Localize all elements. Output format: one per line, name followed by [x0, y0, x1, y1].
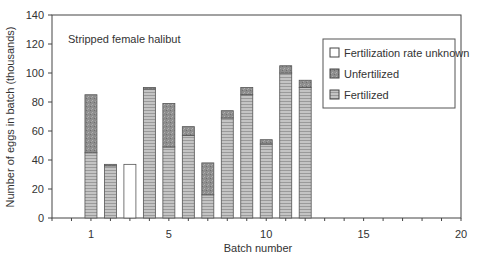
bar-segment-unfertilized	[104, 164, 116, 165]
bars	[85, 66, 311, 218]
stacked-bar-chart: Stripped female halibut 0204060801001201…	[0, 0, 477, 266]
bar-batch-2	[104, 164, 116, 218]
legend-label-unfertilized: Unfertilized	[344, 68, 399, 80]
x-tick-label: 20	[455, 228, 467, 240]
legend: Fertilization rate unknown Unfertilized …	[323, 39, 469, 108]
y-tick-label: 100	[26, 67, 44, 79]
y-axis: 020406080100120140	[26, 9, 52, 224]
bar-segment-unfertilized	[280, 66, 292, 73]
bar-segment-unfertilized	[221, 111, 233, 118]
legend-swatch-fertilized	[330, 90, 339, 99]
bar-segment-fertilization-rate-unknown	[124, 164, 136, 218]
y-tick-label: 140	[26, 9, 44, 21]
x-axis: 15101520	[52, 218, 467, 240]
legend-item-fertilized: Fertilized	[330, 89, 389, 101]
y-tick-label: 0	[38, 212, 44, 224]
bar-batch-7	[202, 163, 214, 218]
bar-segment-fertilized	[280, 73, 292, 218]
y-tick-label: 80	[32, 96, 44, 108]
legend-swatch-unfertilized	[330, 69, 339, 78]
bar-segment-unfertilized	[241, 88, 253, 95]
bar-batch-1	[85, 95, 97, 218]
bar-batch-10	[260, 140, 272, 218]
bar-batch-3	[124, 164, 136, 218]
legend-label-fertilized: Fertilized	[344, 89, 389, 101]
legend-swatch-unknown	[330, 48, 339, 57]
bar-segment-unfertilized	[182, 127, 194, 136]
bar-segment-fertilized	[221, 118, 233, 218]
legend-label-unknown: Fertilization rate unknown	[344, 47, 469, 59]
bar-batch-6	[182, 127, 194, 218]
bar-segment-fertilized	[163, 147, 175, 218]
bar-batch-12	[299, 80, 311, 218]
x-tick-label: 1	[88, 228, 94, 240]
x-tick-label: 5	[166, 228, 172, 240]
bar-segment-unfertilized	[163, 103, 175, 147]
bar-batch-9	[241, 88, 253, 219]
bar-segment-fertilized	[85, 153, 97, 218]
bar-segment-unfertilized	[202, 163, 214, 195]
bar-segment-fertilized	[202, 195, 214, 218]
bar-segment-fertilized	[143, 89, 155, 218]
bar-segment-fertilized	[241, 95, 253, 218]
bar-segment-fertilized	[104, 166, 116, 218]
x-tick-label: 10	[260, 228, 272, 240]
bar-segment-fertilized	[299, 88, 311, 219]
y-tick-label: 60	[32, 125, 44, 137]
x-axis-title: Batch number	[224, 242, 293, 254]
bar-batch-11	[280, 66, 292, 218]
y-tick-label: 20	[32, 183, 44, 195]
bar-segment-fertilized	[260, 144, 272, 218]
bar-batch-4	[143, 88, 155, 219]
bar-segment-fertilized	[182, 135, 194, 218]
bar-segment-unfertilized	[85, 95, 97, 153]
x-tick-label: 15	[357, 228, 369, 240]
chart-annotation: Stripped female halibut	[68, 33, 181, 45]
legend-item-unknown: Fertilization rate unknown	[330, 47, 469, 59]
y-tick-label: 40	[32, 154, 44, 166]
bar-segment-unfertilized	[260, 140, 272, 144]
y-axis-title: Number of eggs in batch (thousands)	[4, 27, 16, 208]
bar-batch-8	[221, 111, 233, 218]
bar-segment-unfertilized	[299, 80, 311, 87]
bar-batch-5	[163, 103, 175, 218]
bar-segment-unfertilized	[143, 88, 155, 89]
y-tick-label: 120	[26, 38, 44, 50]
